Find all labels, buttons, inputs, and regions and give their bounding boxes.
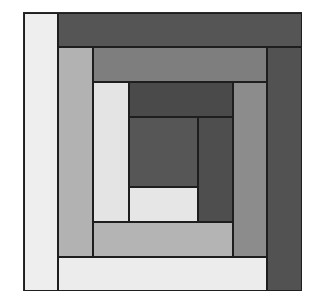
round1-bottom-light bbox=[129, 187, 198, 222]
log-cabin-quilt-block bbox=[23, 12, 302, 291]
round2-top-medium bbox=[93, 47, 267, 82]
round3-top-dark bbox=[58, 13, 302, 47]
round2-left-mlight bbox=[58, 47, 93, 257]
round1-right-dark bbox=[198, 117, 233, 222]
round1-left-light bbox=[93, 82, 129, 222]
round3-left-light bbox=[24, 13, 58, 291]
round3-right-dark bbox=[267, 47, 302, 291]
round1-top-dark bbox=[129, 82, 233, 117]
round2-right-medium bbox=[233, 82, 267, 257]
round2-bottom-mlight bbox=[93, 222, 233, 257]
center-square bbox=[129, 117, 198, 187]
round3-bottom-light bbox=[58, 257, 267, 291]
